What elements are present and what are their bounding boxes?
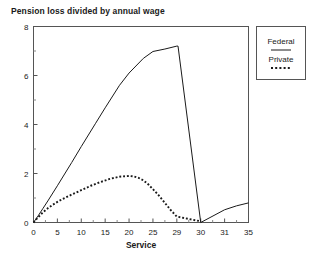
y-tick-label: 4: [24, 121, 29, 130]
x-tick-label: 35: [244, 228, 253, 237]
x-tick-label: 10: [77, 228, 86, 237]
axis-labels: 02468051015202529303135Service: [24, 23, 253, 250]
y-tick-label: 0: [24, 219, 29, 228]
legend-entry-private: Private: [257, 54, 305, 71]
x-tick-label: 15: [101, 228, 110, 237]
series-line-federal: [34, 46, 249, 222]
legend-swatch-dotted-line-icon: [270, 65, 292, 71]
x-tick-label: 0: [31, 228, 36, 237]
chart-figure: Pension loss divided by annual wage 0246…: [0, 0, 316, 260]
x-tick-label: 20: [125, 228, 134, 237]
legend-label: Private: [269, 54, 294, 65]
legend-swatch-solid-line-icon: [270, 47, 292, 53]
x-tick-label: 31: [220, 228, 229, 237]
y-tick-label: 6: [24, 72, 29, 81]
y-tick-label: 2: [24, 170, 29, 179]
x-tick-label: 25: [148, 228, 157, 237]
x-axis-title: Service: [126, 240, 157, 250]
data-series: [34, 46, 249, 222]
axes: [34, 27, 249, 223]
y-tick-label: 8: [24, 23, 29, 32]
x-tick-label: 30: [196, 228, 205, 237]
legend-label: Federal: [267, 36, 294, 47]
x-tick-label: 29: [172, 228, 181, 237]
chart-legend: FederalPrivate: [256, 26, 306, 80]
legend-entry-federal: Federal: [257, 36, 305, 53]
x-tick-label: 5: [55, 228, 60, 237]
